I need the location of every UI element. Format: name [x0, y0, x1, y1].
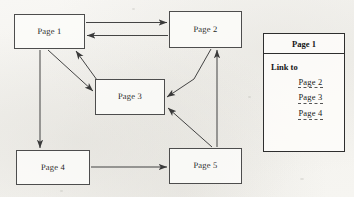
node-label: Page 2	[193, 25, 217, 35]
node-label: Page 4	[41, 163, 65, 173]
legend-link-item[interactable]: Page 2	[271, 78, 338, 89]
legend-panel: Page 1 Link to Page 2 Page 3 Page 4	[263, 33, 345, 152]
edge-page1-to-page3	[48, 50, 93, 91]
node-page4[interactable]: Page 4	[16, 150, 90, 185]
paper-speck	[60, 190, 63, 192]
legend-link-item[interactable]: Page 4	[271, 109, 338, 120]
legend-link-label[interactable]: Page 3	[298, 93, 322, 104]
node-page5[interactable]: Page 5	[169, 148, 242, 184]
diagram-canvas: Page 1 Page 2 Page 3 Page 4 Page 5 Page …	[0, 0, 354, 197]
paper-speck	[248, 96, 251, 98]
edge-page3-to-page1	[76, 51, 97, 80]
legend-link-label[interactable]: Page 2	[298, 78, 322, 89]
legend-header: Page 1	[264, 34, 344, 54]
node-label: Page 1	[37, 27, 61, 37]
edge-page2-to-page3	[167, 49, 211, 97]
node-page3[interactable]: Page 3	[95, 79, 165, 115]
paper-speck	[300, 178, 304, 180]
legend-body: Link to Page 2 Page 3 Page 4	[264, 54, 344, 151]
node-label: Page 3	[118, 92, 142, 102]
legend-link-item[interactable]: Page 3	[271, 93, 338, 104]
legend-link-label[interactable]: Page 4	[298, 109, 322, 120]
node-label: Page 5	[193, 161, 217, 171]
edge-page5-to-page3	[168, 108, 212, 147]
legend-link-to-label: Link to	[271, 63, 338, 72]
node-page1[interactable]: Page 1	[14, 14, 85, 49]
paper-speck	[132, 8, 135, 10]
node-page2[interactable]: Page 2	[169, 11, 242, 48]
